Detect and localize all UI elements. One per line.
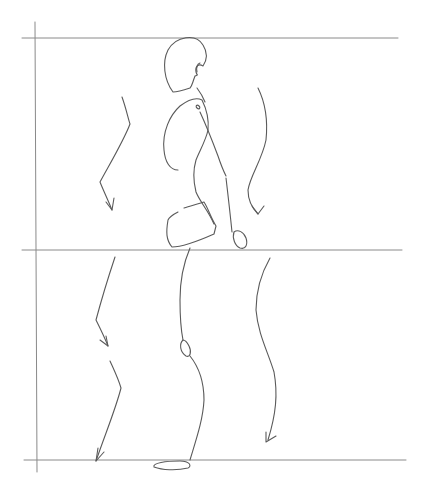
sketch-canvas <box>0 0 428 502</box>
paper-background <box>0 0 428 502</box>
